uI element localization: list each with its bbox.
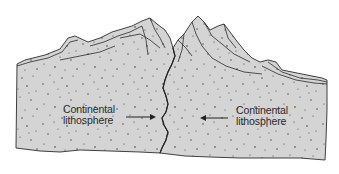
right-plate-label: Continental lithosphere bbox=[236, 105, 288, 127]
left-plate-label: Continental lithosphere bbox=[63, 104, 115, 126]
collision-diagram bbox=[0, 0, 339, 174]
right-label-line2: lithosphere bbox=[236, 116, 288, 127]
right-continental-block bbox=[160, 16, 327, 160]
left-label-line2: lithosphere bbox=[63, 115, 115, 126]
left-continental-block bbox=[16, 18, 175, 153]
